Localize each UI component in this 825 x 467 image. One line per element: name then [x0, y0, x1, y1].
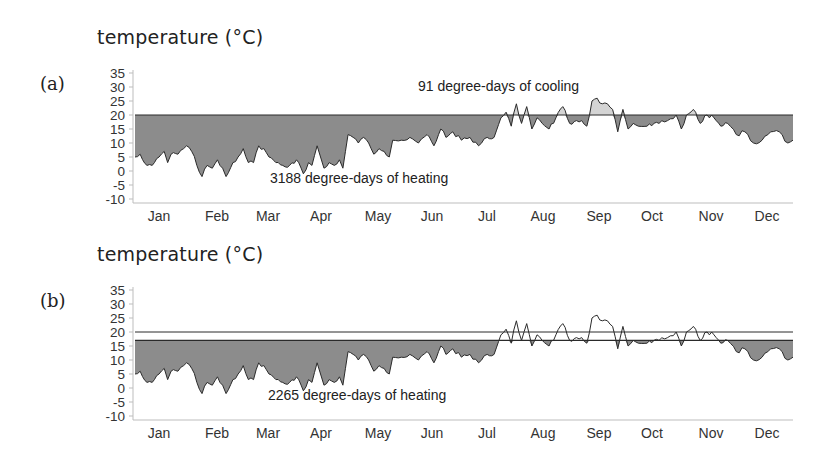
month-label-sep: Sep: [587, 208, 612, 224]
month-label-aug: Aug: [531, 208, 556, 224]
y-tick-label: 5: [117, 150, 125, 165]
month-label-nov: Nov: [699, 425, 724, 441]
month-label-may: May: [365, 425, 391, 441]
y-tick-label: -10: [105, 409, 125, 424]
month-label-jan: Jan: [148, 208, 171, 224]
y-tick-label: 25: [110, 311, 125, 326]
month-label-feb: Feb: [205, 208, 229, 224]
month-label-dec: Dec: [755, 425, 780, 441]
degree-days-chart: 35302520151050-5-10JanFebMarAprMayJunJul…: [0, 0, 825, 467]
heating-area: [135, 340, 793, 393]
month-label-jul: Jul: [478, 425, 496, 441]
y-tick-label: -5: [113, 395, 125, 410]
month-label-apr: Apr: [310, 208, 332, 224]
panel-a-plot: 35302520151050-5-10JanFebMarAprMayJunJul…: [105, 66, 793, 225]
heating-annotation: 3188 degree-days of heating: [270, 170, 448, 186]
month-label-sep: Sep: [587, 425, 612, 441]
month-label-mar: Mar: [256, 425, 280, 441]
cooling-annotation: 91 degree-days of cooling: [418, 78, 579, 94]
heating-annotation: 2265 degree-days of heating: [268, 387, 446, 403]
y-tick-label: 30: [110, 297, 125, 312]
y-tick-label: 35: [110, 283, 125, 298]
month-label-jun: Jun: [421, 208, 444, 224]
month-label-jun: Jun: [421, 425, 444, 441]
cooling-area: [135, 98, 793, 115]
month-label-feb: Feb: [205, 425, 229, 441]
y-tick-label: 25: [110, 94, 125, 109]
heating-area: [135, 115, 793, 177]
month-label-apr: Apr: [310, 425, 332, 441]
month-label-dec: Dec: [755, 208, 780, 224]
y-tick-label: 0: [117, 381, 125, 396]
panel-b-plot: 35302520151050-5-10JanFebMarAprMayJunJul…: [105, 283, 793, 442]
month-label-aug: Aug: [531, 425, 556, 441]
month-label-jan: Jan: [148, 425, 171, 441]
y-tick-label: 20: [110, 108, 125, 123]
y-tick-label: 5: [117, 367, 125, 382]
y-tick-label: 35: [110, 66, 125, 81]
y-tick-label: 30: [110, 80, 125, 95]
y-tick-label: 15: [110, 122, 125, 137]
y-tick-label: 20: [110, 325, 125, 340]
y-tick-label: 0: [117, 164, 125, 179]
month-label-nov: Nov: [699, 208, 724, 224]
month-label-oct: Oct: [641, 208, 663, 224]
y-tick-label: 10: [110, 136, 125, 151]
y-tick-label: -10: [105, 192, 125, 207]
y-tick-label: 10: [110, 353, 125, 368]
y-tick-label: -5: [113, 178, 125, 193]
month-label-oct: Oct: [641, 425, 663, 441]
month-label-may: May: [365, 208, 391, 224]
month-label-mar: Mar: [256, 208, 280, 224]
month-label-jul: Jul: [478, 208, 496, 224]
y-tick-label: 15: [110, 339, 125, 354]
